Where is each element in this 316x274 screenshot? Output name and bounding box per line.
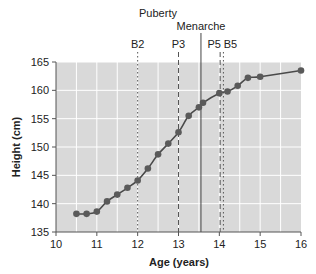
- x-tick-label: 10: [50, 238, 62, 250]
- x-tick-label: 13: [172, 238, 184, 250]
- data-point: [114, 191, 121, 198]
- y-tick-label: 165: [31, 56, 49, 68]
- y-tick-label: 150: [31, 141, 49, 153]
- data-point: [185, 113, 192, 120]
- data-point: [145, 165, 152, 172]
- data-point: [134, 177, 141, 184]
- data-point: [94, 208, 101, 215]
- data-point: [298, 67, 305, 74]
- y-tick-label: 155: [31, 113, 49, 125]
- annotation-label-puberty: Puberty: [139, 7, 177, 19]
- y-tick-label: 135: [31, 226, 49, 238]
- data-point: [234, 83, 241, 90]
- data-point: [104, 198, 111, 205]
- annotation-label-p3: P3: [172, 38, 185, 50]
- annotation-label-p5: P5: [207, 38, 220, 50]
- x-tick-label: 16: [295, 238, 307, 250]
- data-point: [257, 73, 264, 80]
- chart: PubertyB2P3MenarcheP5B5 1011121314151613…: [0, 0, 316, 274]
- x-tick-label: 15: [254, 238, 266, 250]
- y-tick-label: 145: [31, 169, 49, 181]
- data-point: [165, 140, 172, 147]
- x-axis-title: Age (years): [149, 256, 209, 268]
- data-point: [175, 129, 182, 136]
- x-tick-label: 14: [213, 238, 225, 250]
- annotation-label-b2: B2: [131, 38, 144, 50]
- data-point: [83, 211, 90, 218]
- data-point: [73, 211, 80, 218]
- data-point: [216, 90, 223, 97]
- annotation-label-b5: B5: [224, 38, 237, 50]
- data-point: [124, 185, 131, 192]
- y-tick-label: 140: [31, 198, 49, 210]
- data-point: [155, 151, 162, 158]
- y-axis-title: Height (cm): [10, 116, 22, 177]
- data-point: [200, 100, 207, 107]
- data-point: [224, 88, 231, 95]
- data-point: [245, 75, 252, 82]
- x-tick-label: 11: [91, 238, 102, 250]
- x-tick-label: 12: [132, 238, 144, 250]
- y-tick-label: 160: [31, 84, 49, 96]
- annotation-label-menarche: Menarche: [176, 20, 225, 32]
